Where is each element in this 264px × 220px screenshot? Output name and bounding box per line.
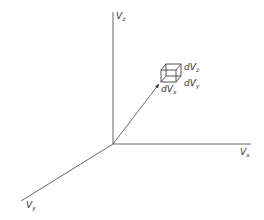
dvx-label: dVx (161, 85, 176, 95)
diagram-graphics (0, 0, 264, 220)
dvy-label: dVy (184, 79, 199, 89)
vx-axis-label: Vx (240, 148, 250, 158)
vz-axis-label: Vz (116, 12, 125, 22)
vy-axis (21, 144, 113, 201)
volume-element-cube (161, 64, 181, 82)
dvz-label: dVz (184, 63, 199, 73)
velocity-space-diagram: Vz Vx Vy dVz dVy dVx (0, 0, 264, 220)
vy-axis-label: Vy (26, 201, 36, 211)
velocity-vector-arrow (113, 84, 159, 144)
